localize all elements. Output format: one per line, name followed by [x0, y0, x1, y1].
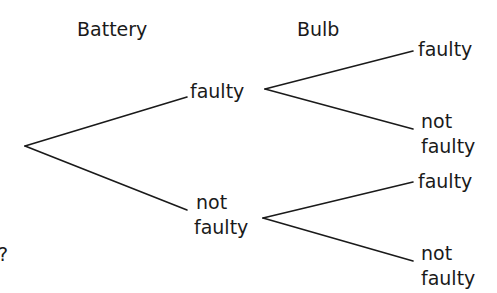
bulb-not-faulty-2-line1: not	[421, 242, 452, 264]
branch-faulty-to-bulb-faulty	[265, 51, 413, 89]
header-battery: Battery	[77, 18, 147, 40]
branch-root-to-battery-faulty	[25, 97, 187, 146]
probability-tree-diagram: Battery Bulb faulty not faulty faulty no…	[0, 0, 497, 293]
branch-faulty-to-bulb-not-faulty	[265, 89, 413, 129]
header-bulb: Bulb	[297, 18, 339, 40]
bulb-not-faulty-2-line2: faulty	[421, 267, 475, 289]
bulb-not-faulty-1-line2: faulty	[421, 135, 475, 157]
battery-not-faulty-line1: not	[196, 191, 227, 213]
bulb-faulty-label-1: faulty	[418, 38, 472, 60]
question-mark: ?	[0, 243, 8, 265]
bulb-faulty-label-2: faulty	[418, 170, 472, 192]
branch-root-to-battery-not-faulty	[25, 146, 187, 210]
branch-not-faulty-to-bulb-not-faulty	[263, 218, 413, 261]
branch-not-faulty-to-bulb-faulty	[263, 182, 413, 218]
battery-not-faulty-line2: faulty	[194, 216, 248, 238]
battery-faulty-label: faulty	[190, 80, 244, 102]
bulb-not-faulty-1-line1: not	[421, 110, 452, 132]
